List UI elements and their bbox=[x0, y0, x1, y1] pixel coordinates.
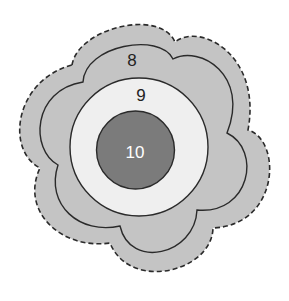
label-ring: 9 bbox=[136, 86, 145, 105]
nested-score-diagram: 8 9 10 bbox=[0, 0, 289, 301]
label-core: 10 bbox=[126, 143, 145, 162]
label-outer: 8 bbox=[127, 51, 136, 70]
